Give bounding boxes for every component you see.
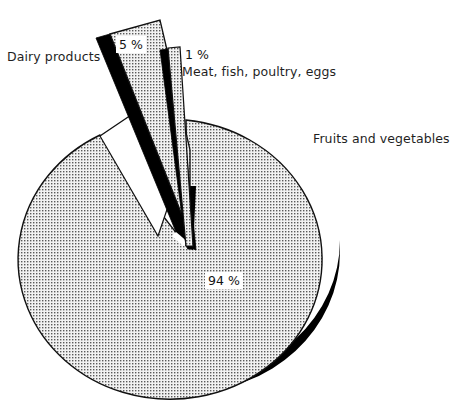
fruits-callout-edge bbox=[300, 140, 310, 150]
label-fruits-and-vegetables: Fruits and vegetables bbox=[313, 131, 450, 146]
value-fruits-and-vegetables: 94 % bbox=[205, 272, 243, 289]
value-dairy-products: 5 % bbox=[116, 36, 146, 53]
label-meat-fish-poultry-eggs: Meat, fish, poultry, eggs bbox=[182, 64, 336, 79]
label-dairy-products: Dairy products bbox=[7, 49, 100, 64]
value-meat-fish-poultry-eggs: 1 % bbox=[182, 46, 212, 63]
